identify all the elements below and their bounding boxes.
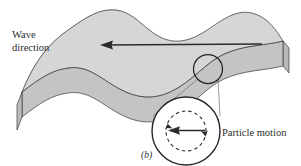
wave-slab-left-tip: [17, 92, 22, 130]
wave-direction-label-line1: Wave: [12, 29, 36, 40]
wave-particle-motion-figure: Wave direction Particle motion (b): [0, 0, 301, 166]
figure-illustration: Wave direction Particle motion (b): [0, 0, 301, 166]
figure-caption: (b): [141, 150, 152, 161]
leader-line-right: [218, 79, 220, 116]
particle-motion-inset: [152, 97, 220, 165]
wave-slab: [17, 10, 289, 130]
wave-direction-arrow-shaft: [104, 44, 262, 45]
wave-direction-label-line2: direction: [12, 42, 50, 53]
wave-slab-right-side-face: [283, 41, 289, 73]
particle-motion-label: Particle motion: [222, 127, 287, 138]
